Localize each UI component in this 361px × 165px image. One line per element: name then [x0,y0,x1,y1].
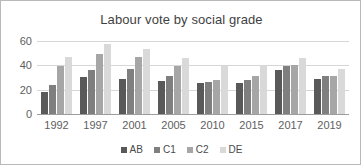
x-axis-tick-label: 2017 [278,119,302,131]
bar-ab-2015 [236,83,243,115]
bar-c1-2019 [322,76,329,115]
x-axis-tick-label: 1992 [44,119,68,131]
bar-c1-1992 [49,85,56,115]
bar-ab-2019 [314,79,321,116]
bar-de-2010 [221,66,228,115]
y-axis-tick-label: 0 [26,108,32,120]
plot-area: 0204060 19921997200120052010201520172019 [37,42,349,115]
bar-c1-2015 [244,80,251,115]
bar-ab-1992 [41,92,48,115]
bar-de-2001 [143,49,150,115]
bar-c1-1997 [88,70,95,115]
y-axis-tick-label: 20 [20,84,32,96]
bar-de-2017 [299,58,306,115]
bar-de-2019 [338,69,345,115]
bar-de-1992 [65,57,72,115]
bar-c2-2010 [213,80,220,115]
legend-swatch-icon [121,147,127,153]
legend-item-c2[interactable]: C2 [187,144,209,155]
x-axis-tick-label: 2015 [239,119,263,131]
bar-c2-2005 [174,66,181,115]
legend-swatch-icon [154,147,160,153]
chart-legend: ABC1C2DE [1,144,361,155]
bar-de-2015 [260,65,267,115]
legend-item-ab[interactable]: AB [121,144,143,155]
legend-label: C1 [163,144,176,155]
bar-group: 2001 [115,42,154,115]
x-axis-tick-label: 2019 [317,119,341,131]
legend-label: DE [229,144,243,155]
bar-de-2005 [182,58,189,115]
y-axis-tick-label: 60 [20,35,32,47]
legend-label: C2 [196,144,209,155]
x-axis-tick-label: 2001 [122,119,146,131]
bar-c2-2001 [135,57,142,115]
y-axis-tick-label: 40 [20,59,32,71]
x-axis-line [37,114,349,115]
legend-label: AB [130,144,143,155]
bar-c2-2017 [291,65,298,115]
bar-ab-2005 [158,81,165,115]
bar-ab-1997 [80,77,87,115]
x-axis-tick-label: 2010 [200,119,224,131]
bar-group: 2005 [154,42,193,115]
bar-c1-2010 [205,82,212,115]
bar-group: 1992 [37,42,76,115]
bar-c2-1992 [57,66,64,115]
bar-c2-1997 [96,54,103,115]
bar-ab-2017 [275,70,282,115]
bar-c1-2005 [166,76,173,115]
bar-c1-2001 [127,69,134,115]
bar-de-1997 [104,44,111,115]
bar-group: 2017 [271,42,310,115]
legend-swatch-icon [220,147,226,153]
bar-group: 2010 [193,42,232,115]
legend-item-de[interactable]: DE [220,144,243,155]
bar-c2-2015 [252,76,259,115]
bar-group: 1997 [76,42,115,115]
chart-title: Labour vote by social grade [1,12,361,27]
x-axis-tick-label: 2005 [161,119,185,131]
bar-ab-2010 [197,83,204,115]
bar-c1-2017 [283,66,290,115]
chart-container: Labour vote by social grade 0204060 1992… [0,0,361,165]
legend-swatch-icon [187,147,193,153]
bar-group: 2015 [232,42,271,115]
bar-ab-2001 [119,79,126,116]
bar-c2-2019 [330,76,337,115]
legend-item-c1[interactable]: C1 [154,144,176,155]
x-axis-tick-label: 1997 [83,119,107,131]
bar-group: 2019 [310,42,349,115]
